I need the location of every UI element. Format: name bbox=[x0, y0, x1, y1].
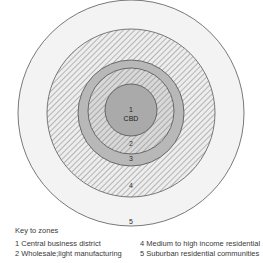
legend-column-left: 1 Central business district 2 Wholesale;… bbox=[15, 239, 122, 259]
legend-item-5: 5 Suburban residential communities bbox=[140, 249, 260, 259]
cbd-zone-text: CBD bbox=[124, 114, 139, 123]
zone-marker-5: 5 bbox=[129, 218, 133, 226]
concentric-zone-diagram: 1 CBD 2 3 4 5 bbox=[0, 0, 263, 263]
cbd-center-label: 1 CBD bbox=[124, 105, 139, 123]
legend-column-right: 4 Medium to high income residential 5 Su… bbox=[140, 239, 260, 259]
zone-marker-2: 2 bbox=[129, 140, 133, 148]
zone-marker-4: 4 bbox=[129, 182, 133, 190]
legend-item-1: 1 Central business district bbox=[15, 239, 122, 249]
cbd-zone-number: 1 bbox=[124, 105, 139, 114]
legend-item-4: 4 Medium to high income residential bbox=[140, 239, 260, 249]
legend-title: Key to zones bbox=[15, 226, 58, 235]
legend: Key to zones 1 Central business district… bbox=[0, 226, 263, 263]
zone-marker-3: 3 bbox=[129, 155, 133, 163]
legend-item-2: 2 Wholesale;light manufacturing bbox=[15, 249, 122, 259]
